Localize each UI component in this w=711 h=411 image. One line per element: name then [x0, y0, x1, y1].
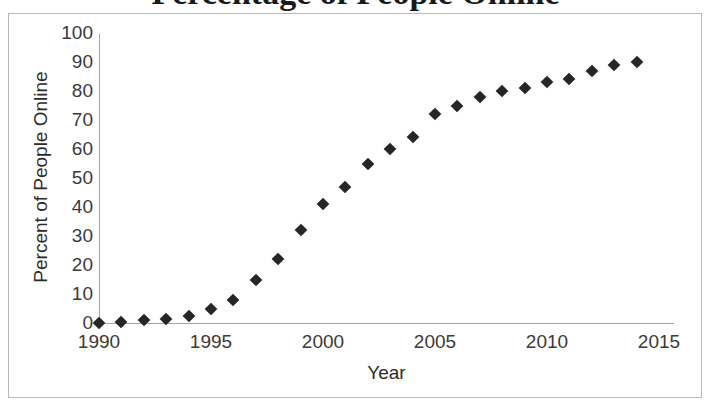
data-point	[361, 157, 374, 170]
x-axis-title: Year	[99, 362, 674, 384]
chart-title-text: Percentage of People Online	[0, 0, 711, 12]
y-axis-tick-70: 70	[49, 110, 93, 129]
x-axis-line	[99, 323, 674, 324]
x-axis-tick-2000: 2000	[293, 332, 353, 351]
x-axis-tick-2015: 2015	[629, 332, 689, 351]
y-axis-tick-100: 100	[49, 23, 93, 42]
y-axis-tick-20: 20	[49, 255, 93, 274]
data-point	[115, 315, 128, 328]
data-point	[429, 108, 442, 121]
data-point	[585, 64, 598, 77]
plot-area: 0102030405060708090100 19901995200020052…	[9, 14, 703, 399]
y-axis-tick-50: 50	[49, 168, 93, 187]
data-point	[496, 85, 509, 98]
data-point	[93, 317, 106, 330]
data-point	[227, 293, 240, 306]
data-point	[182, 309, 195, 322]
x-axis-tick-1995: 1995	[181, 332, 241, 351]
x-axis-tick-1990: 1990	[69, 332, 129, 351]
data-point	[630, 56, 643, 69]
chart-title-clipped: Percentage of People Online	[0, 0, 711, 14]
y-axis-tick-80: 80	[49, 81, 93, 100]
data-point	[137, 314, 150, 327]
y-axis-tick-30: 30	[49, 226, 93, 245]
data-point	[272, 253, 285, 266]
data-point	[384, 143, 397, 156]
data-point	[608, 59, 621, 72]
x-axis-tick-2005: 2005	[405, 332, 465, 351]
data-point	[563, 73, 576, 86]
chart-frame: 0102030405060708090100 19901995200020052…	[8, 13, 702, 398]
y-axis-tick-10: 10	[49, 284, 93, 303]
data-point	[541, 76, 554, 89]
data-point	[518, 82, 531, 95]
data-point	[205, 302, 218, 315]
data-point	[473, 90, 486, 103]
data-point	[317, 198, 330, 211]
y-axis-tick-40: 40	[49, 197, 93, 216]
data-point	[406, 131, 419, 144]
y-axis-line	[99, 34, 100, 324]
data-point	[451, 99, 464, 112]
x-axis-tick-2010: 2010	[517, 332, 577, 351]
data-point	[249, 273, 262, 286]
y-axis-title: Percent of People Online	[30, 27, 52, 327]
y-axis-tick-0: 0	[49, 313, 93, 332]
y-axis-tick-60: 60	[49, 139, 93, 158]
data-point	[339, 180, 352, 193]
y-axis-tick-90: 90	[49, 52, 93, 71]
data-point	[294, 224, 307, 237]
